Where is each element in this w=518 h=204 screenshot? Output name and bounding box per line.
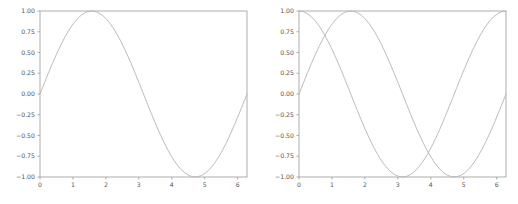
x-tick-label: 2: [363, 181, 367, 188]
figure-row: 0123456−1.00−0.75−0.50−0.250.000.250.500…: [0, 0, 518, 204]
y-tick-label: 0.50: [21, 49, 35, 56]
x-tick-label: 2: [104, 181, 108, 188]
figure-panel-left: 0123456−1.00−0.75−0.50−0.250.000.250.500…: [0, 0, 259, 204]
x-tick-label: 6: [236, 181, 240, 188]
y-tick-label: 0.00: [21, 90, 35, 97]
plot-canvas-right: 0123456−1.00−0.75−0.50−0.250.000.250.500…: [259, 0, 518, 204]
y-tick-label: −0.50: [16, 132, 35, 139]
y-tick-label: −1.00: [275, 173, 294, 180]
axes-left: 0123456−1.00−0.75−0.50−0.250.000.250.500…: [16, 7, 247, 187]
y-tick-label: 1.00: [21, 7, 35, 14]
y-tick-label: −0.25: [275, 111, 294, 118]
x-tick-label: 5: [203, 181, 207, 188]
y-tick-label: −1.00: [16, 173, 35, 180]
x-tick-label: 0: [297, 181, 301, 188]
y-tick-label: 0.00: [280, 90, 294, 97]
x-tick-label: 6: [495, 181, 499, 188]
y-tick-label: −0.75: [16, 152, 35, 159]
y-tick-label: −0.75: [275, 152, 294, 159]
data-line-sin-x-: [299, 11, 506, 177]
y-tick-label: 0.50: [280, 49, 294, 56]
x-tick-label: 4: [170, 181, 174, 188]
x-tick-label: 3: [137, 181, 141, 188]
x-tick-label: 4: [429, 181, 433, 188]
data-line-sin-x-: [40, 11, 247, 177]
figure-panel-right: 0123456−1.00−0.75−0.50−0.250.000.250.500…: [259, 0, 518, 204]
y-tick-label: −0.50: [275, 132, 294, 139]
x-tick-label: 3: [396, 181, 400, 188]
x-tick-label: 1: [330, 181, 334, 188]
y-tick-label: −0.25: [16, 111, 35, 118]
plot-canvas-left: 0123456−1.00−0.75−0.50−0.250.000.250.500…: [0, 0, 259, 204]
axes-right: 0123456−1.00−0.75−0.50−0.250.000.250.500…: [275, 7, 506, 187]
x-tick-label: 0: [38, 181, 42, 188]
y-tick-label: 1.00: [280, 7, 294, 14]
x-tick-label: 1: [71, 181, 75, 188]
y-tick-label: 0.25: [280, 69, 294, 76]
y-tick-label: 0.25: [21, 69, 35, 76]
y-tick-label: 0.75: [280, 28, 294, 35]
y-tick-label: 0.75: [21, 28, 35, 35]
x-tick-label: 5: [462, 181, 466, 188]
